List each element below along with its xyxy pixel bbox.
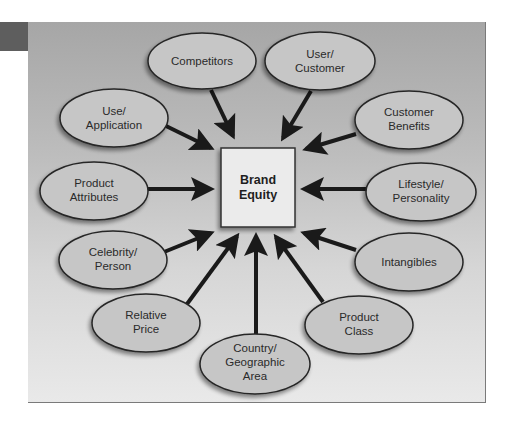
node-competitors: Competitors [148, 33, 256, 89]
node-label: Benefits [388, 120, 430, 132]
node-country-geographic-area: Country/ Geographic Area [200, 334, 310, 394]
node-relative-price: Relative Price [92, 294, 200, 352]
node-user-customer: User/ Customer [265, 32, 375, 90]
node-label: Geographic [225, 356, 285, 368]
node-label: Intangibles [381, 256, 437, 268]
node-customer-benefits: Customer Benefits [355, 91, 463, 149]
node-product-attributes: Product Attributes [40, 162, 148, 220]
arrow-intangibles [304, 233, 356, 250]
node-label: Price [133, 323, 159, 335]
arrow-use-application [166, 126, 211, 148]
arrow-relative-price [187, 236, 237, 304]
node-label: Class [345, 325, 374, 337]
node-label: Person [95, 260, 131, 272]
node-label: Competitors [171, 55, 233, 67]
center-label-line1: Brand [240, 173, 276, 187]
node-label: Relative [125, 309, 167, 321]
node-label: Celebrity/ [89, 246, 138, 258]
node-label: Product [74, 177, 114, 189]
arrow-product-class [276, 237, 323, 302]
node-label: Customer [295, 62, 345, 74]
node-lifestyle-personality: Lifestyle/ Personality [366, 163, 476, 221]
node-intangibles: Intangibles [355, 233, 463, 291]
node-label: Lifestyle/ [398, 178, 444, 190]
arrow-competitors [211, 90, 233, 136]
node-label: Customer [384, 106, 434, 118]
node-label: Personality [393, 192, 450, 204]
node-label: Use/ [102, 105, 126, 117]
node-label: Area [243, 370, 268, 382]
node-product-class: Product Class [305, 296, 413, 354]
arrow-celebrity-person [164, 233, 211, 252]
center-box: Brand Equity [221, 148, 295, 227]
node-label: Country/ [233, 342, 277, 354]
arrow-customer-benefits [306, 134, 356, 149]
brand-equity-diagram: Brand Equity Competitors User/ Customer … [0, 0, 510, 424]
center-label-line2: Equity [239, 188, 277, 202]
node-label: Product [339, 311, 379, 323]
node-label: Application [86, 119, 142, 131]
node-label: Attributes [70, 191, 119, 203]
node-label: User/ [306, 48, 334, 60]
arrow-user-customer [283, 91, 311, 138]
node-use-application: Use/ Application [60, 89, 168, 147]
node-celebrity-person: Celebrity/ Person [59, 231, 167, 289]
